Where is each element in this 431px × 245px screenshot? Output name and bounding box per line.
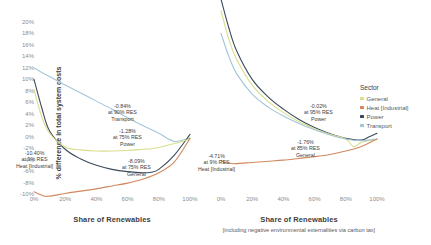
- annotation-sector: Transport: [108, 116, 137, 122]
- legend-swatch-icon: [360, 124, 364, 128]
- annotation-res: at 95% RES: [304, 109, 333, 115]
- y-tick-label: 18%: [22, 30, 34, 36]
- x-tick-label: 100%: [182, 196, 197, 202]
- x-axis-subtitle-right: [including negative environmental extern…: [201, 227, 397, 233]
- legend-item-label: General: [367, 96, 388, 102]
- legend-swatch-icon: [360, 115, 364, 119]
- y-tick-label: 12%: [22, 65, 34, 71]
- x-tick-label: 60%: [122, 196, 134, 202]
- annotation-res: at 90% RES: [108, 109, 137, 115]
- x-tick-label: 80%: [153, 196, 165, 202]
- y-tick-label: 16%: [22, 42, 34, 48]
- legend-swatch-icon: [360, 97, 364, 101]
- annotation-general: -8.09%at 75% RESGeneral: [122, 158, 151, 177]
- y-tick-label: 6%: [25, 99, 34, 105]
- y-tick-label: 20%: [22, 19, 34, 25]
- y-tick-label: 10%: [22, 76, 34, 82]
- annotation-power: -0.02%at 95% RESPower: [304, 103, 333, 122]
- y-tick-label: 8%: [25, 88, 34, 94]
- annotation-sector: General: [122, 171, 151, 177]
- annotation-res: at 9% RES: [16, 156, 53, 162]
- legend-item-label: Power: [367, 114, 384, 120]
- annotation-power: -1.28%at 75% RESPower: [113, 128, 142, 147]
- legend-items: GeneralHeat [Industrial]PowerTransport: [360, 94, 430, 130]
- y-tick-label: -6%: [23, 168, 34, 174]
- legend-item-power[interactable]: Power: [360, 112, 430, 121]
- annotation-sector: Power: [113, 141, 142, 147]
- annotation-general: -1.76%at 85% RESGeneral: [291, 139, 320, 158]
- x-axis-title-left: Share of Renewables: [34, 208, 190, 226]
- series-line-power: [34, 79, 190, 172]
- x-tick-label: 60%: [309, 196, 321, 202]
- x-tick-label: 40%: [90, 196, 102, 202]
- series-line-heat-industrial: [34, 138, 190, 196]
- x-axis-tick-labels-right: 0%20%40%60%80%100%: [221, 196, 377, 206]
- annotation-heat-industrial: -4.71%at 9% RESHeat [Industrial]: [198, 153, 235, 172]
- x-tick-label: 100%: [369, 196, 384, 202]
- legend-title: Sector: [360, 84, 430, 91]
- annotation-heat-industrial: -10.40%at 9% RESHeat [Industrial]: [16, 150, 53, 169]
- series-line-power: [221, 0, 377, 140]
- annotation-res: at 75% RES: [113, 134, 142, 140]
- legend-item-general[interactable]: General: [360, 94, 430, 103]
- x-tick-label: 0%: [217, 196, 226, 202]
- plot-lines-right: [221, 22, 377, 194]
- y-tick-label: 14%: [22, 53, 34, 59]
- y-tick-label: 4%: [25, 111, 34, 117]
- x-axis-title-right: Share of Renewables [including negative …: [201, 208, 397, 233]
- annotation-res: at 9% RES: [198, 159, 235, 165]
- x-tick-label: 20%: [59, 196, 71, 202]
- legend-item-heat-industrial[interactable]: Heat [Industrial]: [360, 103, 430, 112]
- annotation-sector: Heat [Industrial]: [198, 166, 235, 172]
- y-tick-label: 2%: [25, 122, 34, 128]
- x-axis-tick-labels-left: 0%20%40%60%80%100%: [34, 196, 190, 206]
- y-tick-label: -8%: [23, 180, 34, 186]
- annotation-sector: Power: [304, 116, 333, 122]
- x-tick-label: 40%: [277, 196, 289, 202]
- legend-item-transport[interactable]: Transport: [360, 121, 430, 130]
- legend-item-label: Transport: [367, 123, 392, 129]
- x-tick-label: 80%: [340, 196, 352, 202]
- annotation-res: at 75% RES: [122, 164, 151, 170]
- x-tick-label: 0%: [30, 196, 39, 202]
- x-tick-label: 20%: [246, 196, 258, 202]
- annotation-res: at 85% RES: [291, 145, 320, 151]
- legend-item-label: Heat [Industrial]: [367, 105, 409, 111]
- plot-area-right: [221, 22, 377, 194]
- annotation-transport: -0.84%at 90% RESTransport: [108, 103, 137, 122]
- legend-swatch-icon: [360, 106, 364, 110]
- annotation-sector: Heat [Industrial]: [16, 163, 53, 169]
- x-axis-title-left-text: Share of Renewables: [73, 215, 150, 224]
- y-tick-label: 0%: [25, 134, 34, 140]
- legend: Sector GeneralHeat [Industrial]PowerTran…: [360, 84, 430, 130]
- chart-figure: % difference in total system costs 20%18…: [0, 0, 431, 245]
- series-line-general: [221, 11, 377, 147]
- series-line-transport: [221, 33, 377, 140]
- annotation-sector: General: [291, 152, 320, 158]
- x-axis-title-right-text: Share of Renewables: [260, 215, 337, 224]
